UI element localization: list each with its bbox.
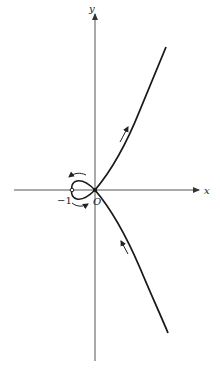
arrow-loop-bottom-icon: [72, 203, 88, 206]
x-axis-label: x: [204, 185, 210, 196]
curve-upper-branch: [95, 47, 166, 190]
y-axis-label: y: [88, 3, 95, 14]
origin-label: O: [93, 196, 101, 207]
neg-one-label: −1: [57, 195, 72, 206]
diagram-canvas: y x O −1: [0, 0, 220, 374]
curve-lower-branch: [95, 190, 168, 333]
arrow-lower-branch-icon: [121, 241, 128, 254]
arrow-loop-top-icon: [69, 173, 86, 177]
point-neg-one: [70, 188, 74, 192]
origin-point: [93, 188, 97, 192]
